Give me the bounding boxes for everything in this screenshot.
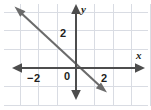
x-axis-arrow-right	[135, 63, 145, 73]
y-axis-arrow-down	[71, 90, 81, 100]
graph-canvas	[0, 0, 151, 110]
y-axis-arrow-up	[71, 4, 81, 14]
coordinate-plane-figure: −2 2 2 0 x y	[0, 0, 151, 110]
x-axis-arrow-left	[12, 63, 22, 73]
x-axis-tick-label-negative-2: −2	[27, 73, 41, 84]
y-axis-tick-label-2: 2	[60, 28, 66, 39]
x-axis-name-label: x	[136, 50, 142, 61]
x-axis-tick-label-2: 2	[101, 73, 107, 84]
y-axis-name-label: y	[81, 4, 86, 15]
origin-label: 0	[64, 71, 70, 82]
y-axis	[71, 4, 81, 100]
